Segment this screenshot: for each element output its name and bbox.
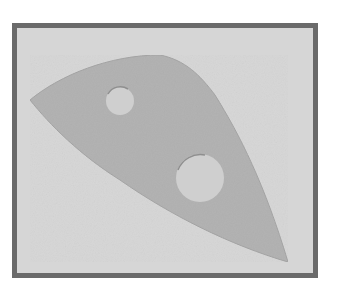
plate-shape	[30, 55, 288, 262]
large-hole	[176, 154, 224, 202]
photo-scene	[0, 0, 341, 298]
